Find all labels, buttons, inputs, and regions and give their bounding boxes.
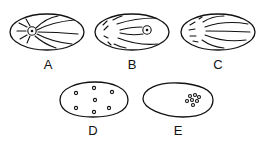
panel-label-a: A: [44, 58, 53, 71]
panel-label-e: E: [174, 124, 183, 137]
panel-c-cell: [181, 14, 255, 50]
panel-label-c: C: [213, 58, 222, 71]
panel-a-cell: [10, 14, 84, 50]
panel-label-d: D: [88, 124, 97, 137]
diagram-canvas: [0, 0, 270, 146]
panel-d-cell: [60, 82, 128, 117]
panel-b-cell: [95, 14, 169, 50]
panel-label-b: B: [128, 58, 137, 71]
cell-stages-diagram: A B C D E: [0, 0, 270, 146]
panel-e-cell: [143, 83, 213, 117]
